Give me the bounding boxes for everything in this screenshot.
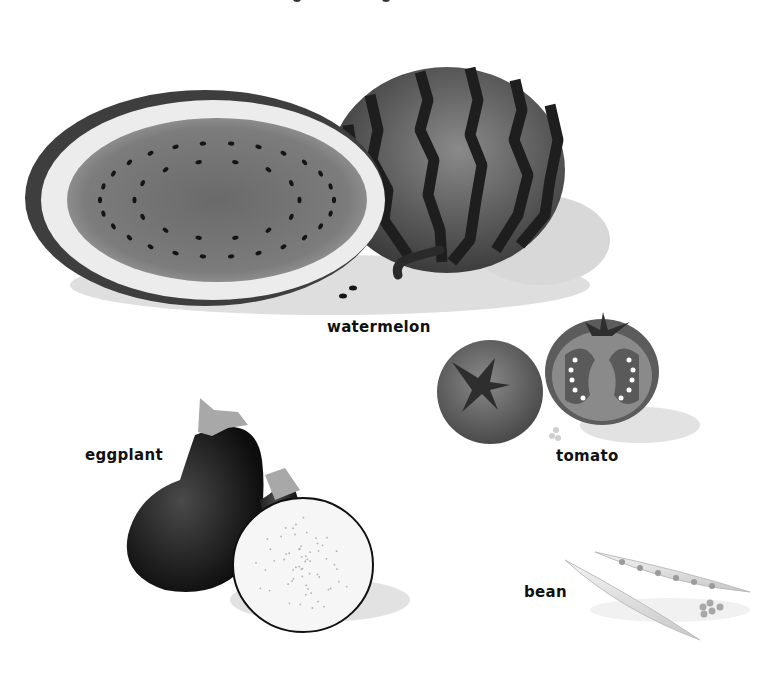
- eggplant-seed: [323, 606, 325, 608]
- eggplant-seed: [334, 564, 336, 566]
- eggplant-seed: [328, 589, 330, 591]
- half-watermelon-icon: [25, 90, 385, 306]
- eggplant-seed: [283, 559, 285, 561]
- eggplant-seed: [346, 586, 348, 588]
- eggplant-seed: [255, 562, 257, 564]
- eggplant-seed: [307, 588, 309, 590]
- vegetable-illustration: [0, 0, 781, 674]
- eggplant-seed: [280, 536, 282, 538]
- whole-tomato-icon: [437, 340, 543, 444]
- eggplant-seed: [317, 573, 319, 575]
- eggplant-seed: [301, 556, 303, 558]
- eggplant-icon: [127, 398, 373, 632]
- eggplant-seed: [305, 594, 307, 596]
- eggplant-seed: [269, 548, 271, 550]
- eggplant-seed: [303, 517, 305, 519]
- eggplant-seed: [295, 524, 297, 526]
- eggplant-seed: [299, 604, 301, 606]
- eggplant-seed: [293, 578, 295, 580]
- eggplant-seed: [318, 550, 320, 552]
- eggplant-seed: [266, 538, 268, 540]
- eggplant-seed: [322, 544, 324, 546]
- eggplant-seed: [326, 537, 328, 539]
- eggplant-seed: [289, 602, 291, 604]
- eggplant-seed: [291, 580, 293, 582]
- eggplant-seed: [288, 552, 290, 554]
- eggplant-seed: [259, 587, 261, 589]
- eggplant-seed: [336, 550, 338, 552]
- eggplant-seed: [295, 566, 297, 568]
- eggplant-seed: [298, 548, 300, 550]
- eggplant-seed: [330, 588, 332, 590]
- label-bean: bean: [524, 583, 567, 601]
- eggplant-seed: [265, 569, 267, 571]
- eggplant-seed: [338, 581, 340, 583]
- eggplant-seed: [318, 576, 320, 578]
- eggplant-seed: [285, 553, 287, 555]
- eggplant-seed: [309, 551, 311, 553]
- eggplant-seed: [325, 558, 327, 560]
- eggplant-seed: [309, 573, 311, 575]
- eggplant-seed: [317, 543, 319, 545]
- eggplant-seed: [292, 569, 294, 571]
- watermelon-seed: [133, 197, 137, 203]
- eggplant-seed: [305, 555, 307, 557]
- eggplant-seed: [301, 576, 303, 578]
- eggplant-seed: [298, 566, 300, 568]
- bean-icon: [565, 552, 750, 640]
- eggplant-seed: [273, 560, 275, 562]
- eggplant-seed: [317, 601, 319, 603]
- eggplant-seed: [306, 559, 308, 561]
- illustration-scene: watermelon tomato eggplant bean: [0, 0, 781, 674]
- eggplant-seed: [292, 527, 294, 529]
- label-watermelon: watermelon: [327, 318, 431, 336]
- eggplant-seed: [309, 560, 311, 562]
- eggplant-seed: [306, 532, 308, 534]
- eggplant-seed: [287, 583, 289, 585]
- label-tomato: tomato: [556, 447, 619, 465]
- eggplant-seed: [312, 607, 314, 609]
- eggplant-seed: [305, 584, 307, 586]
- eggplant-seed: [294, 533, 296, 535]
- eggplant-seed: [285, 527, 287, 529]
- label-eggplant: eggplant: [85, 446, 163, 464]
- eggplant-seed: [336, 568, 338, 570]
- watermelon-seed: [298, 197, 302, 203]
- eggplant-seed: [315, 537, 317, 539]
- watermelon-seed: [332, 197, 336, 203]
- flower-icon: [549, 427, 561, 441]
- eggplant-seed: [310, 592, 312, 594]
- watermelon-seed: [98, 197, 102, 203]
- eggplant-seed: [269, 590, 271, 592]
- eggplant-seed: [300, 545, 302, 547]
- eggplant-seed: [301, 568, 303, 570]
- eggplant-seed: [304, 561, 306, 563]
